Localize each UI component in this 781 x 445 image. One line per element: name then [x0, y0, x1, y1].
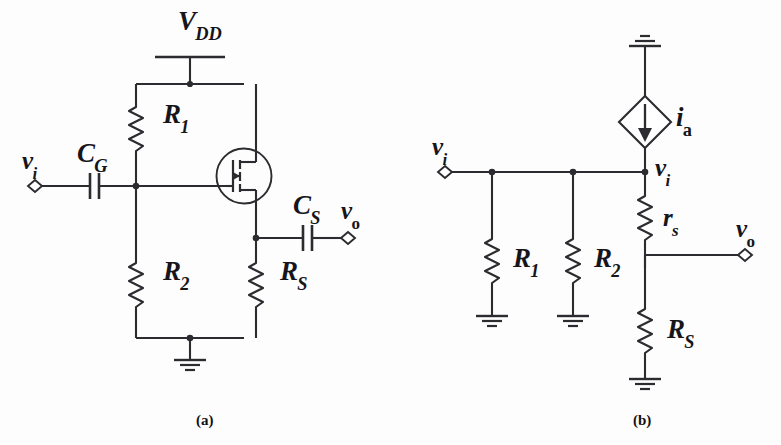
capacitor-cg [90, 173, 136, 199]
current-source-ia [619, 96, 671, 148]
capacitor-cs [256, 225, 341, 251]
label-r2-a: R2 [163, 258, 190, 290]
resistor-rs-big [629, 255, 661, 389]
output-terminal-vo [341, 232, 355, 244]
circuit-b-group [438, 36, 752, 389]
label-r2-b: R2 [594, 245, 621, 277]
ground-symbol [174, 338, 206, 370]
label-rs-small-b: rs [663, 205, 679, 235]
mosfet-q1 [217, 84, 272, 238]
output-tap-b [645, 249, 752, 261]
resistor-r1-b [476, 172, 508, 326]
label-r1-a: R1 [163, 101, 190, 133]
label-vdd: VDD [178, 8, 223, 40]
label-rs-a: RS [280, 258, 308, 290]
label-vi-a: vi [22, 148, 38, 178]
resistor-rs [249, 238, 263, 338]
label-cs: CS [293, 192, 321, 224]
caption-b: (b) [633, 412, 651, 429]
resistor-r1 [129, 84, 143, 186]
resistor-r2-b [557, 172, 589, 326]
resistor-r2 [129, 186, 143, 338]
node-rail-b [452, 169, 648, 176]
label-rs-big-b: RS [667, 316, 695, 348]
label-vo-a: vo [341, 198, 361, 228]
dc-supply-vdd [155, 57, 225, 87]
label-node-vi-b: vi [655, 155, 671, 185]
gate-node-a [133, 183, 226, 190]
label-r1-b: R1 [513, 245, 540, 277]
ground-top [629, 36, 661, 96]
label-vo-b: vo [736, 216, 756, 246]
input-terminal-vi [28, 180, 90, 192]
resistor-rs-small [638, 172, 652, 268]
caption-a: (a) [196, 412, 214, 429]
label-cg: CG [77, 140, 108, 172]
label-vi-b: vi [432, 134, 448, 164]
circuit-figure: VDD vi CG R1 R2 RS CS vo ia vi vi R1 R2 … [0, 0, 781, 445]
label-ia: ia [676, 104, 693, 136]
